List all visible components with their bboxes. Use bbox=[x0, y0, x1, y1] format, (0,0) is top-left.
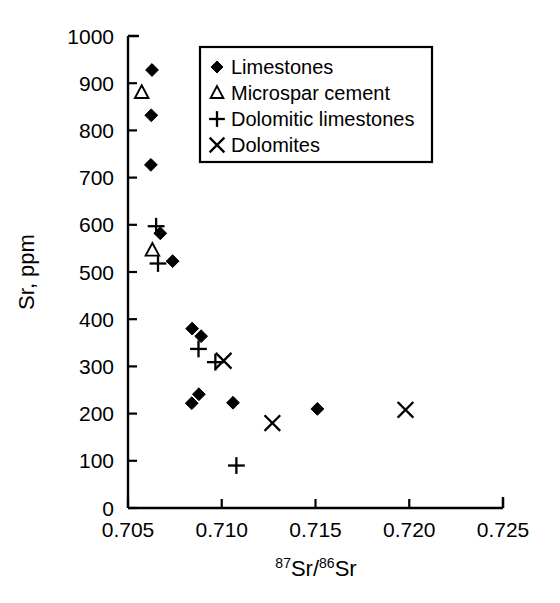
legend-item-label: Dolomites bbox=[231, 134, 320, 156]
y-axis-title-text: Sr, ppm bbox=[14, 234, 39, 310]
data-point-diamond bbox=[146, 64, 159, 77]
y-tick-label: 600 bbox=[79, 213, 114, 236]
legend-item-microspar-cement[interactable]: Microspar cement bbox=[211, 82, 391, 104]
y-tick-label: 700 bbox=[79, 166, 114, 189]
data-point-diamond bbox=[227, 396, 240, 409]
x-axis-title: 87Sr/86Sr bbox=[275, 555, 356, 581]
y-tick-label: 800 bbox=[79, 119, 114, 142]
y-tick-label: 0 bbox=[102, 497, 114, 520]
y-tick-label: 200 bbox=[79, 402, 114, 425]
data-point-plus bbox=[150, 255, 167, 272]
data-point-triangle bbox=[146, 243, 160, 256]
y-tick-label: 100 bbox=[79, 449, 114, 472]
legend-item-label: Dolomitic limestones bbox=[231, 108, 414, 130]
legend: LimestonesMicrospar cementDolomitic lime… bbox=[200, 47, 432, 162]
series-dolomites bbox=[216, 353, 414, 431]
chart-container: 01002003004005006007008009001000 0.7050.… bbox=[0, 0, 560, 603]
x-tick-label: 0.725 bbox=[477, 518, 530, 541]
x-axis-tick-labels: 0.7050.7100.7150.7200.725 bbox=[102, 518, 530, 541]
legend-item-label: Limestones bbox=[231, 56, 333, 78]
y-tick-label: 1000 bbox=[67, 25, 114, 48]
data-point-cross bbox=[216, 353, 232, 369]
y-tick-label: 500 bbox=[79, 261, 114, 284]
y-tick-label: 900 bbox=[79, 72, 114, 95]
data-point-diamond bbox=[186, 322, 199, 335]
scatter-plot: 01002003004005006007008009001000 0.7050.… bbox=[0, 0, 560, 603]
legend-item-label: Microspar cement bbox=[231, 82, 390, 104]
data-point-diamond bbox=[166, 255, 179, 268]
y-tick-label: 400 bbox=[79, 308, 114, 331]
x-tick-label: 0.705 bbox=[102, 518, 155, 541]
x-axis-title-text: 87Sr/86Sr bbox=[275, 555, 356, 581]
data-point-cross bbox=[265, 415, 281, 431]
data-point-triangle bbox=[135, 85, 149, 98]
data-point-plus bbox=[228, 457, 245, 474]
data-point-cross bbox=[398, 402, 414, 418]
data-point-diamond bbox=[311, 402, 324, 415]
y-axis-title: Sr, ppm bbox=[14, 234, 39, 310]
x-tick-label: 0.710 bbox=[195, 518, 248, 541]
data-point-diamond bbox=[145, 109, 158, 122]
data-point-plus bbox=[190, 341, 207, 358]
x-tick-label: 0.720 bbox=[383, 518, 436, 541]
y-axis-tick-labels: 01002003004005006007008009001000 bbox=[67, 25, 114, 520]
data-point-diamond bbox=[192, 388, 205, 401]
x-tick-label: 0.715 bbox=[289, 518, 342, 541]
data-point-diamond bbox=[144, 158, 157, 171]
data-point-diamond bbox=[195, 330, 208, 343]
data-point-diamond bbox=[185, 397, 198, 410]
y-tick-label: 300 bbox=[79, 355, 114, 378]
legend-item-dolomitic-limestones[interactable]: Dolomitic limestones bbox=[209, 108, 414, 130]
series-dolomitic-limestones bbox=[148, 218, 245, 474]
